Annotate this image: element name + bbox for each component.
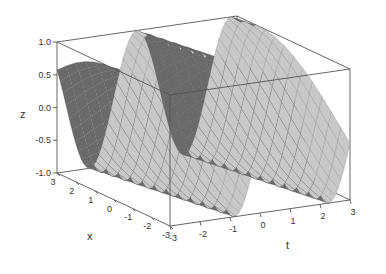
x-tick-label: 3: [50, 177, 55, 187]
t-axis-ticks: -3-2-10123: [169, 200, 356, 243]
x-tick-label: 1: [88, 195, 93, 205]
z-tick-label: -0.5: [35, 135, 51, 145]
t-tick-label: -1: [229, 224, 237, 234]
x-tick-label: -2: [143, 221, 151, 231]
z-tick-label: 0.0: [38, 103, 51, 113]
t-tick-label: 3: [350, 207, 355, 217]
x-tick-label: -1: [124, 212, 132, 222]
surface-plot: 1.00.50.0-0.5-1.0 3210-1-2-3 -3-2-10123 …: [0, 0, 386, 274]
t-axis-title: t: [286, 239, 289, 251]
z-tick-label: 0.5: [38, 70, 51, 80]
z-axis-title: z: [20, 108, 26, 120]
t-tick-label: -3: [169, 233, 177, 243]
t-tick: [290, 209, 291, 213]
t-tick: [260, 213, 261, 217]
z-axis-ticks: 1.00.50.0-0.5-1.0: [35, 37, 57, 178]
x-tick-label: 0: [107, 204, 112, 214]
t-tick: [320, 204, 321, 208]
t-tick-label: 0: [260, 220, 265, 230]
x-tick-label: 2: [69, 186, 74, 196]
z-tick-label: 1.0: [38, 37, 51, 47]
t-tick: [350, 200, 351, 204]
t-tick: [200, 222, 201, 226]
z-tick-label: -1.0: [35, 168, 51, 178]
t-tick: [230, 217, 231, 221]
t-tick-label: 2: [320, 211, 325, 221]
t-tick-label: 1: [290, 216, 295, 226]
surface-mesh: [57, 17, 350, 217]
t-tick-label: -2: [199, 229, 207, 239]
x-axis-title: x: [87, 230, 93, 242]
